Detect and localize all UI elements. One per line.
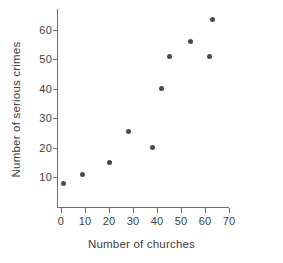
y-tick <box>53 177 58 178</box>
data-point <box>207 54 212 59</box>
y-tick-label: 50 <box>39 53 52 65</box>
x-axis-title: Number of churches <box>0 238 283 250</box>
x-tick-label: 50 <box>175 215 188 227</box>
x-tick <box>181 208 182 213</box>
plot-area: 102030405060 010203040506070 <box>61 12 229 207</box>
data-point <box>61 181 66 186</box>
x-tick-label: 70 <box>223 215 236 227</box>
y-tick-label: 30 <box>39 112 52 124</box>
y-tick-label: 60 <box>39 24 52 36</box>
y-axis-title: Number of serious crimes <box>10 12 24 207</box>
data-point <box>188 39 193 44</box>
y-tick-label: 10 <box>39 171 52 183</box>
x-tick-label: 40 <box>151 215 164 227</box>
data-point <box>150 145 155 150</box>
y-tick <box>53 118 58 119</box>
y-tick <box>53 148 58 149</box>
data-point <box>126 129 131 134</box>
x-tick-label: 20 <box>103 215 116 227</box>
x-tick <box>61 208 62 213</box>
data-point <box>107 160 112 165</box>
x-tick <box>157 208 158 213</box>
y-tick <box>53 59 58 60</box>
x-tick <box>229 208 230 213</box>
x-tick <box>85 208 86 213</box>
data-point <box>159 86 164 91</box>
x-tick <box>133 208 134 213</box>
x-tick <box>109 208 110 213</box>
scatter-chart: 102030405060 010203040506070 Number of s… <box>0 0 283 263</box>
y-tick <box>53 89 58 90</box>
data-point <box>167 54 172 59</box>
data-point <box>80 172 85 177</box>
x-axis-line <box>57 207 229 208</box>
x-tick-label: 60 <box>199 215 212 227</box>
x-tick-label: 0 <box>58 215 64 227</box>
x-tick <box>205 208 206 213</box>
y-tick-label: 20 <box>39 142 52 154</box>
x-tick-label: 30 <box>127 215 140 227</box>
x-tick-label: 10 <box>79 215 92 227</box>
y-tick <box>53 30 58 31</box>
y-tick-label: 40 <box>39 83 52 95</box>
data-point <box>210 17 215 22</box>
